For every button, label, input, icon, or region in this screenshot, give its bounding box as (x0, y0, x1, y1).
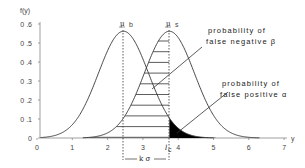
svg-text:false negative β: false negative β (206, 37, 276, 46)
false-negative-annotation: probability of false negative β (206, 26, 276, 46)
y-tick-label: 0 .6 (20, 21, 32, 28)
mu-b-label: μ b (119, 20, 133, 28)
y-tick-label: 0 .2 (20, 97, 32, 104)
x-tick-label: 4 (176, 144, 180, 151)
x-tick-label: 6 (247, 144, 251, 151)
x-tick-label: 0 (35, 144, 39, 151)
mu-s-label: μ s (165, 20, 179, 28)
y-tick-label: 0 .4 (20, 59, 32, 66)
svg-text:k σ: k σ (139, 155, 150, 163)
detection-limit-diagram: f(y) 00 .10 .20 .30 .40 .50 .6 y 0123456… (0, 0, 305, 168)
svg-text:b: b (129, 21, 133, 28)
critical-level-label: l c (165, 144, 172, 153)
x-tick-label: 1 (70, 144, 74, 151)
svg-text:probability of: probability of (208, 26, 266, 35)
k-sigma-span: k σ (125, 155, 166, 163)
x-tick-label: 5 (212, 144, 216, 151)
y-tick-label: 0 .3 (20, 78, 32, 85)
x-tick-label: 3 (141, 144, 145, 151)
svg-text:probability of: probability of (222, 79, 280, 88)
false-positive-area (169, 118, 220, 138)
background-distribution-curve (41, 31, 214, 138)
false-positive-annotation: probability of false positive α (220, 79, 287, 99)
y-tick-label: 0 (28, 135, 32, 142)
y-axis: f(y) 00 .10 .20 .30 .40 .50 .6 (20, 7, 40, 142)
svg-text:false positive α: false positive α (220, 90, 287, 99)
y-axis-title: f(y) (20, 7, 30, 15)
svg-text:c: c (168, 146, 172, 153)
false-negative-hatch (83, 41, 169, 137)
beta-leader-line (152, 47, 202, 89)
svg-text:s: s (175, 21, 179, 28)
x-tick-label: 7 (282, 144, 286, 151)
svg-text:l: l (165, 144, 167, 152)
y-tick-label: 0 .5 (20, 40, 32, 47)
x-tick-label: 2 (106, 144, 110, 151)
x-axis-title: y (291, 135, 295, 143)
y-tick-label: 0 .1 (20, 116, 32, 123)
